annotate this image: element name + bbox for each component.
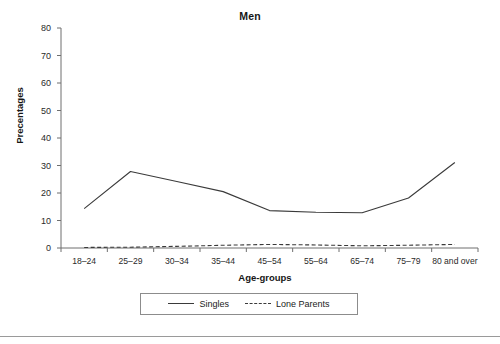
- legend-label-lone-parents: Lone Parents: [276, 299, 330, 309]
- legend-swatch-solid-icon: [168, 303, 194, 305]
- series-line-singles: [84, 162, 455, 212]
- data-series-lines: [84, 162, 455, 247]
- footer-divider: [0, 336, 500, 337]
- y-axis-ticks: [57, 28, 61, 248]
- chart-legend: Singles Lone Parents: [140, 293, 358, 315]
- x-axis-ticks: [61, 248, 478, 252]
- axes: [61, 28, 478, 248]
- legend-label-singles: Singles: [199, 299, 229, 309]
- legend-item-lone-parents: Lone Parents: [245, 299, 330, 309]
- chart-figure: Men Precentages Age-groups 0102030405060…: [0, 0, 500, 344]
- series-line-lone-parents: [84, 244, 455, 247]
- legend-item-singles: Singles: [168, 299, 229, 309]
- legend-swatch-dashed-icon: [245, 303, 271, 305]
